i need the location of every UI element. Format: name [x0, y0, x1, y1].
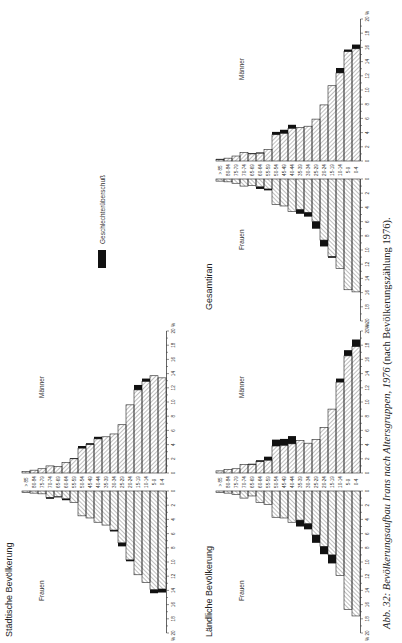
svg-text:16: 16 [171, 356, 176, 362]
svg-text:0: 0 [365, 489, 370, 492]
svg-text:12: 12 [365, 261, 370, 267]
svg-text:0: 0 [171, 489, 176, 492]
svg-text:75-79: 75-79 [40, 476, 45, 488]
svg-text:65-69: 65-69 [250, 476, 255, 488]
chart-staedtische: Städtische Bevölkerung Frauen Männer 0-4… [0, 320, 200, 643]
svg-text:80-84: 80-84 [226, 476, 231, 488]
svg-text:16: 16 [171, 602, 176, 608]
svg-text:75-79: 75-79 [234, 164, 239, 176]
svg-text:70-74: 70-74 [242, 476, 247, 488]
svg-text:16: 16 [365, 44, 370, 50]
svg-text:12: 12 [171, 385, 176, 391]
svg-text:8: 8 [365, 234, 370, 237]
svg-text:35-39: 35-39 [298, 164, 303, 176]
rotated-page: Städtische Bevölkerung Frauen Männer 0-4… [0, 0, 402, 643]
svg-text:10-14: 10-14 [144, 476, 149, 488]
svg-text:10: 10 [365, 559, 370, 565]
svg-text:60-64: 60-64 [64, 476, 69, 488]
svg-text:10: 10 [171, 399, 176, 405]
svg-text:> 85: > 85 [218, 165, 223, 175]
svg-text:4: 4 [365, 443, 370, 446]
svg-text:65-69: 65-69 [250, 164, 255, 176]
svg-text:75-79: 75-79 [234, 476, 239, 488]
svg-text:25-29: 25-29 [120, 476, 125, 488]
svg-text:%: % [171, 323, 176, 327]
svg-text:14: 14 [171, 371, 176, 377]
svg-text:8: 8 [365, 546, 370, 549]
svg-text:> 85: > 85 [218, 477, 223, 487]
svg-text:65-69: 65-69 [56, 476, 61, 488]
svg-text:10: 10 [365, 247, 370, 253]
pyramid-plot: 0-45-910-1415-1920-2425-2930-3435-3940-4… [0, 320, 200, 643]
svg-text:20: 20 [171, 630, 176, 636]
svg-text:45-49: 45-49 [282, 476, 287, 488]
svg-text:4: 4 [365, 518, 370, 521]
svg-text:8: 8 [171, 546, 176, 549]
svg-text:40-44: 40-44 [290, 476, 295, 488]
svg-text:12: 12 [365, 385, 370, 391]
svg-text:20: 20 [365, 16, 370, 22]
svg-text:0-4: 0-4 [354, 478, 359, 485]
svg-text:45-49: 45-49 [88, 476, 93, 488]
svg-text:55-59: 55-59 [72, 476, 77, 488]
svg-text:16: 16 [365, 602, 370, 608]
svg-text:18: 18 [171, 342, 176, 348]
svg-text:2: 2 [365, 145, 370, 148]
svg-text:20: 20 [365, 318, 370, 324]
chart-laendliche: Ländliche Bevölkerung Frauen Männer 0-45… [200, 320, 380, 643]
svg-text:20-24: 20-24 [322, 476, 327, 488]
caption-main: Abb. 32: Bevölkerungsaufbau Irans nach A… [381, 367, 392, 629]
svg-text:12: 12 [365, 573, 370, 579]
svg-text:8: 8 [365, 102, 370, 105]
svg-text:15-19: 15-19 [136, 476, 141, 488]
svg-text:6: 6 [365, 220, 370, 223]
svg-text:16: 16 [365, 290, 370, 296]
legend-swatch-excess [98, 250, 106, 268]
svg-text:50-54: 50-54 [274, 164, 279, 176]
svg-text:18: 18 [365, 342, 370, 348]
svg-text:16: 16 [365, 356, 370, 362]
svg-text:5-9: 5-9 [346, 478, 351, 485]
svg-text:2: 2 [365, 457, 370, 460]
svg-text:18: 18 [365, 304, 370, 310]
svg-text:45-49: 45-49 [282, 164, 287, 176]
svg-text:12: 12 [171, 573, 176, 579]
pyramid-plot: 0-45-910-1415-1920-2425-2930-3435-3940-4… [200, 0, 380, 320]
caption-source: (nach Bevölkerungszählung 1976). [381, 217, 392, 367]
svg-text:%: % [365, 11, 370, 15]
svg-text:0: 0 [365, 159, 370, 162]
legend-label: Geschlechterüberschuß [99, 175, 106, 244]
figure-caption: Abb. 32: Bevölkerungsaufbau Irans nach A… [381, 14, 392, 629]
svg-text:%: % [171, 637, 176, 641]
svg-text:20-24: 20-24 [128, 476, 133, 488]
svg-text:2: 2 [171, 457, 176, 460]
svg-text:55-59: 55-59 [266, 164, 271, 176]
svg-text:8: 8 [365, 414, 370, 417]
svg-text:30-34: 30-34 [306, 476, 311, 488]
svg-text:14: 14 [365, 587, 370, 593]
pyramid-plot: 0-45-910-1415-1920-2425-2930-3435-3940-4… [200, 320, 380, 643]
svg-text:30-34: 30-34 [306, 164, 311, 176]
svg-text:10-14: 10-14 [338, 476, 343, 488]
svg-text:6: 6 [171, 532, 176, 535]
svg-text:40-44: 40-44 [290, 164, 295, 176]
svg-text:60-64: 60-64 [258, 164, 263, 176]
svg-text:15-19: 15-19 [330, 476, 335, 488]
svg-text:80-84: 80-84 [32, 476, 37, 488]
svg-text:50-54: 50-54 [80, 476, 85, 488]
svg-text:6: 6 [365, 117, 370, 120]
svg-text:%: % [365, 325, 370, 329]
svg-text:14: 14 [171, 587, 176, 593]
svg-text:0-4: 0-4 [354, 166, 359, 173]
svg-text:5-9: 5-9 [346, 166, 351, 173]
svg-text:35-39: 35-39 [104, 476, 109, 488]
svg-text:%: % [365, 637, 370, 641]
svg-text:18: 18 [365, 30, 370, 36]
svg-text:20: 20 [365, 630, 370, 636]
svg-text:0-4: 0-4 [160, 478, 165, 485]
svg-text:4: 4 [171, 443, 176, 446]
svg-text:6: 6 [171, 429, 176, 432]
svg-text:8: 8 [171, 414, 176, 417]
svg-text:4: 4 [171, 518, 176, 521]
legend: Geschlechterüberschuß [98, 175, 106, 268]
